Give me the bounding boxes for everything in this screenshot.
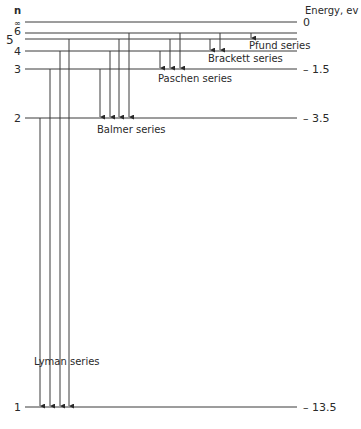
- balmer-series: [100, 33, 129, 117]
- level-n-label: 2: [14, 112, 21, 125]
- level-n-label: 4: [14, 45, 21, 58]
- level-energy-label: – 13.5: [303, 401, 337, 414]
- series-label: Pfund series: [249, 40, 310, 51]
- energy-level-6: 6: [14, 25, 297, 38]
- level-energy-label: – 3.5: [303, 112, 330, 125]
- series-label: Paschen series: [158, 73, 232, 84]
- level-n-label: 1: [14, 401, 21, 414]
- level-n-label: 5: [6, 33, 14, 47]
- energy-level-infinity: ∞0: [14, 16, 310, 29]
- series-label: Balmer series: [97, 124, 166, 135]
- energy-level-2: 2– 3.5: [14, 112, 330, 125]
- series-labels: Lyman seriesBalmer seriesPaschen seriesB…: [34, 40, 310, 367]
- level-energy-label: 0: [303, 16, 310, 29]
- series-label: Lyman series: [34, 356, 100, 367]
- level-n-label: 3: [14, 63, 21, 76]
- energy-axis-header: Energy, ev: [305, 5, 359, 16]
- transitions: [40, 33, 251, 406]
- series-label: Brackett series: [208, 53, 283, 64]
- n-axis-header: n: [14, 5, 21, 16]
- hydrogen-energy-level-diagram: n Energy, ev ∞06543– 1.52– 3.51– 13.5 Ly…: [0, 0, 361, 429]
- energy-level-1: 1– 13.5: [14, 401, 337, 414]
- lyman-series: [40, 39, 69, 406]
- level-energy-label: – 1.5: [303, 63, 330, 76]
- level-n-label: 6: [14, 25, 21, 38]
- brackett-series: [210, 33, 220, 50]
